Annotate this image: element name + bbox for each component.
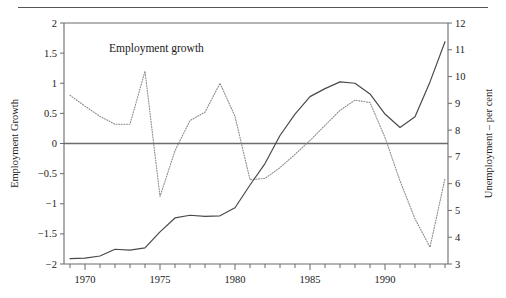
- left-axis-tick-label: 2: [52, 18, 57, 29]
- right-axis-tick-label: 8: [455, 125, 460, 136]
- top-horizontal-rule: [18, 7, 488, 8]
- left-axis-tick-label: −2: [46, 259, 57, 270]
- right-axis-tick-label: 5: [455, 205, 460, 216]
- right-axis-tick-label: 4: [455, 232, 461, 243]
- x-axis-tick-label: 1990: [375, 274, 396, 285]
- series-line-employment-growth: [70, 71, 445, 247]
- x-axis-tick-label: 1980: [225, 274, 246, 285]
- left-axis-tick-label: −1.5: [38, 228, 57, 239]
- left-axis-tick-label: 1.5: [44, 48, 57, 59]
- right-axis-tick-label: 7: [455, 151, 460, 162]
- figure-container: −2−1.5−1−0.500.511.523456789101112197019…: [0, 0, 506, 298]
- left-axis-title: Employment Growth: [9, 98, 20, 188]
- series-label-employment-growth: Employment growth: [109, 42, 204, 55]
- right-axis-tick-label: 9: [455, 98, 460, 109]
- right-axis-title: Unemployment – per cent: [483, 89, 494, 198]
- series-line-unemployment: [70, 42, 445, 259]
- right-axis-tick-label: 6: [455, 178, 460, 189]
- left-axis-tick-label: 0.5: [44, 108, 57, 119]
- chart-canvas: −2−1.5−1−0.500.511.523456789101112197019…: [0, 0, 506, 298]
- right-axis-tick-label: 11: [455, 44, 465, 55]
- right-axis-tick-label: 3: [455, 259, 460, 270]
- right-axis-tick-label: 12: [455, 18, 466, 29]
- left-axis-tick-label: −1: [46, 198, 57, 209]
- left-axis-tick-label: 1: [52, 78, 57, 89]
- left-axis-tick-label: −0.5: [38, 168, 57, 179]
- x-axis-tick-label: 1970: [75, 274, 96, 285]
- right-axis-tick-label: 10: [455, 71, 466, 82]
- x-axis-tick-label: 1985: [300, 274, 321, 285]
- x-axis-tick-label: 1975: [150, 274, 171, 285]
- left-axis-tick-label: 0: [52, 138, 57, 149]
